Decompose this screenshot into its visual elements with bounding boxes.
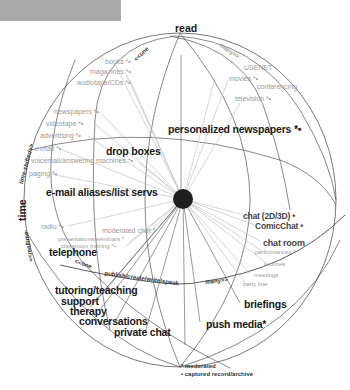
label-videotape: videotape *• [46,120,83,127]
label-conferencing: conferencing [257,83,297,90]
label-books: books *• [105,58,131,65]
label-usenet: USENET [244,64,272,71]
label-telephone: telephone [49,247,97,258]
label-radio: radio *• [41,223,64,230]
label-chat-2d3d: chat (2D/3D) • [243,212,295,221]
label-email: e-mail *• [35,145,61,152]
label-party-line: party line [243,281,267,287]
label-voicemail: voicemail/answering machines *• [31,157,133,164]
axis-label-read: read [175,23,197,34]
hub-dot [173,189,193,209]
label-email-aliases: e-mail aliases/list servs [46,187,158,198]
label-moderated-chat: moderated chat * [102,227,155,234]
label-personalized-newspapers: personalized newspapers *• [168,124,301,135]
label-push-media: push media* [206,319,266,330]
label-lectures: lectures [264,261,285,267]
label-tutoring: tutoring/teaching [55,285,137,296]
legend-captured: • captured record/archive [181,371,253,377]
label-television: television *• [235,95,271,102]
label-comicchat: ComicChat • [255,222,303,231]
legend-moderated: * moderated [181,363,216,369]
axis-label-time: time [17,199,28,221]
label-advertising: advertising *• [40,132,81,139]
label-audiotape: audiotape/CDs *• [77,79,130,86]
label-presentations: presentations/seminars * [58,236,124,242]
label-movies: movies *• [229,75,258,82]
label-chat-room: chat room [263,239,305,248]
label-briefings: briefings [244,299,287,310]
label-magazines: magazines *• [90,68,131,75]
label-private-chat: private chat [114,327,171,338]
label-drop-boxes: drop boxes [106,146,161,157]
label-paging: paging *• [29,170,57,177]
label-meetings: meetings [254,272,278,278]
label-performances: performances * [255,249,296,255]
label-newspapers: newspapers *• [54,108,99,115]
label-conversations: conversations [79,316,148,327]
